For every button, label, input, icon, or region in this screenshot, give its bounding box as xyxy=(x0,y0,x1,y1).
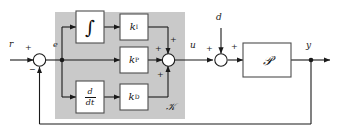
differentiator-label: d dt xyxy=(76,81,104,113)
sign-disturbance-right-plus: + xyxy=(231,43,238,51)
integrator-symbol: ∫ xyxy=(76,11,104,43)
summing-junction-disturbance xyxy=(215,54,227,66)
label-control: u xyxy=(190,41,196,50)
sign-derivative-plus: + xyxy=(157,71,164,79)
label-error: e xyxy=(53,41,58,49)
sign-proportional-plus: + xyxy=(155,45,162,53)
node-error-junction xyxy=(60,58,65,63)
gain-kd-label: kD xyxy=(120,84,148,110)
sign-feedback-minus: − xyxy=(29,66,36,74)
gain-kp-label: kP xyxy=(120,47,148,73)
label-output: y xyxy=(306,41,311,50)
summing-junction-controller xyxy=(162,54,174,66)
sign-integral-plus: + xyxy=(170,36,177,44)
label-disturbance: d xyxy=(216,13,222,22)
block-diagram-canvas: r e u d y + − + + + + + ∫ kI kP d dt kD … xyxy=(0,0,338,132)
gain-kp-subscript: P xyxy=(135,57,139,63)
sign-reference-plus: + xyxy=(25,44,32,52)
gain-ki-subscript: I xyxy=(136,24,138,30)
gain-ki-label: kI xyxy=(120,14,148,40)
plant-label: 𝒫 xyxy=(243,43,291,77)
derivative-denominator: dt xyxy=(86,99,94,107)
sign-disturbance-left-plus: + xyxy=(206,45,213,53)
node-output-junction xyxy=(309,58,314,63)
derivative-numerator: d xyxy=(87,88,92,96)
controller-region-label: 𝒦 xyxy=(166,102,175,112)
label-reference: r xyxy=(9,40,13,49)
gain-kd-subscript: D xyxy=(135,94,140,100)
derivative-fraction: d dt xyxy=(85,88,96,107)
